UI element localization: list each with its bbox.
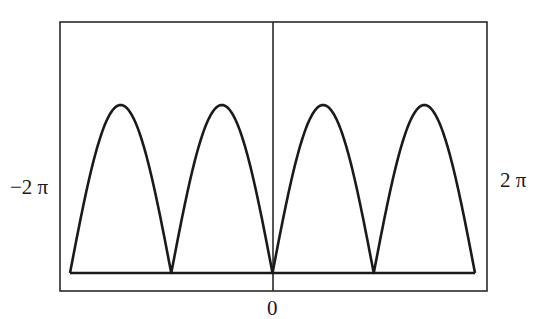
x-tick-label-min: −2 π [10, 177, 48, 198]
x-tick-label-zero: 0 [267, 298, 278, 319]
x-tick-label-max: 2 π [500, 170, 526, 191]
